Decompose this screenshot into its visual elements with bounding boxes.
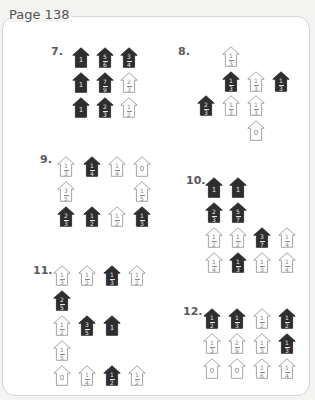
house-icon: 29 [228, 333, 246, 354]
fraction-value: 0 [133, 166, 151, 172]
fraction-value: 12 [253, 315, 271, 329]
house-icon: 56 [96, 47, 114, 68]
house-icon: 13 [278, 333, 296, 354]
denominator: 3 [235, 323, 239, 329]
denominator: 2 [115, 221, 119, 227]
house-icon: 0 [53, 365, 71, 386]
denominator: 3 [210, 348, 214, 354]
denominator: 5 [60, 355, 64, 361]
house-icon: 79 [96, 72, 114, 93]
denominator: 2 [90, 221, 94, 227]
fraction-value: 29 [228, 340, 246, 354]
numerator: 1 [85, 272, 89, 278]
fraction-value: 12 [108, 213, 126, 227]
fraction-value: 0 [203, 368, 221, 374]
denominator: 2 [212, 242, 216, 248]
house-icon: 13 [247, 71, 265, 92]
denominator: 4 [285, 242, 289, 248]
house-icon: 12 [205, 227, 223, 248]
fraction-value: 79 [96, 79, 114, 93]
fraction-value: 12 [103, 372, 121, 386]
house-icon: 12 [78, 265, 96, 286]
house-icon: 12 [203, 308, 221, 329]
denominator: 4 [90, 171, 94, 177]
problem-label: 12. [183, 305, 203, 318]
numerator: 3 [64, 188, 68, 194]
denominator: 3 [285, 348, 289, 354]
numerator: 1 [90, 163, 94, 169]
denominator: 3 [254, 110, 258, 116]
fraction-value: 34 [120, 54, 138, 68]
fraction-value: 1 [103, 325, 121, 331]
numerator: 1 [235, 315, 239, 321]
denominator: 2 [210, 323, 214, 329]
fraction-value: 23 [205, 209, 223, 223]
house-icon: 23 [57, 206, 75, 227]
fraction-value: 13 [222, 78, 240, 92]
denominator: 2 [135, 280, 139, 286]
house-icon: 13 [247, 95, 265, 116]
numerator: 3 [127, 54, 131, 60]
fraction-value: 12 [229, 234, 247, 248]
denominator: 4 [85, 380, 89, 386]
denominator: 2 [60, 330, 64, 336]
house-icon: 13 [222, 71, 240, 92]
numerator: 2 [204, 102, 208, 108]
denominator: 3 [204, 110, 208, 116]
house-icon: 35 [57, 181, 75, 202]
numerator: 1 [115, 163, 119, 169]
fraction-value: 12 [205, 234, 223, 248]
fraction-value: 23 [96, 104, 114, 118]
numerator: 1 [285, 234, 289, 240]
numerator: 1 [229, 53, 233, 59]
numerator: 1 [210, 340, 214, 346]
numerator: 1 [210, 315, 214, 321]
denominator: 4 [285, 373, 289, 379]
page-title: Page 138 [9, 7, 72, 22]
denominator: 2 [260, 323, 264, 329]
fraction-value: 12 [128, 272, 146, 286]
house-icon: 1 [229, 177, 247, 198]
numerator: 7 [103, 79, 107, 85]
denominator: 3 [60, 280, 64, 286]
fraction-value: 13 [253, 259, 271, 273]
fraction-value: 12 [83, 213, 101, 227]
denominator: 3 [212, 217, 216, 223]
numerator: 1 [279, 78, 283, 84]
denominator: 3 [110, 280, 114, 286]
numerator: 1 [135, 372, 139, 378]
fraction-value: 23 [120, 79, 138, 93]
fraction-value: 13 [222, 102, 240, 116]
fraction-value: 14 [278, 234, 296, 248]
house-icon: 37 [253, 227, 271, 248]
problem-label: 11. [33, 264, 53, 277]
fraction-value: 1 [205, 187, 223, 193]
denominator: 3 [229, 61, 233, 67]
numerator: 1 [260, 340, 264, 346]
fraction-value: 13 [229, 259, 247, 273]
denominator: 3 [260, 267, 264, 273]
fraction-value: 23 [57, 213, 75, 227]
denominator: 4 [212, 267, 216, 273]
numerator: 1 [285, 259, 289, 265]
house-icon: 12 [229, 227, 247, 248]
house-icon: 1 [205, 177, 223, 198]
fraction-value: 13 [272, 78, 290, 92]
denominator: 7 [236, 217, 240, 223]
denominator: 3 [260, 348, 264, 354]
fraction-value: 14 [83, 163, 101, 177]
numerator: 1 [60, 322, 64, 328]
house-icon: 12 [83, 206, 101, 227]
fraction-value: 13 [53, 272, 71, 286]
denominator: 3 [279, 86, 283, 92]
fraction-value: 15 [133, 188, 151, 202]
fraction-value: 1 [229, 187, 247, 193]
numerator: 1 [212, 234, 216, 240]
numerator: 2 [103, 104, 107, 110]
fraction-value: 35 [57, 188, 75, 202]
numerator: 2 [64, 213, 68, 219]
house-icon: 0 [203, 358, 221, 379]
house-icon: 15 [53, 340, 71, 361]
fraction-value: 0 [228, 368, 246, 374]
numerator: 1 [140, 213, 144, 219]
